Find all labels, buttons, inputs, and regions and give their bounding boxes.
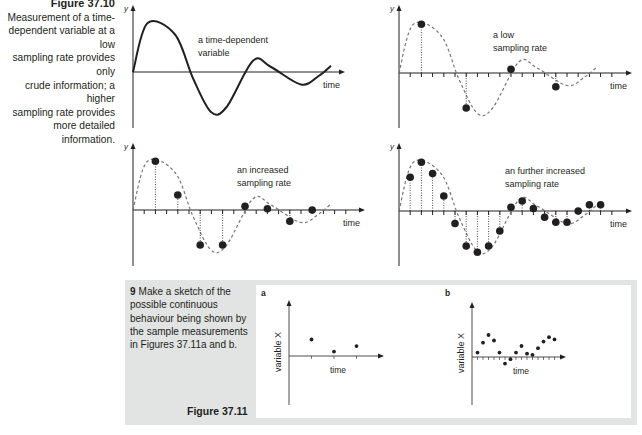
y-axis-label: y xyxy=(123,142,129,151)
sample-point xyxy=(474,248,482,256)
x-axis-label: time xyxy=(513,366,529,376)
sample-point xyxy=(286,217,294,225)
data-point xyxy=(481,341,485,345)
y-axis-label: y xyxy=(389,142,395,151)
data-point xyxy=(355,344,359,348)
panel-label: b xyxy=(445,288,450,298)
sample-point xyxy=(429,170,437,178)
sample-point xyxy=(451,220,459,228)
x-axis-label: time xyxy=(323,80,340,90)
data-point xyxy=(536,346,540,350)
sample-point xyxy=(586,201,594,209)
data-point xyxy=(542,340,546,344)
sample-point xyxy=(219,241,227,249)
y-axis-label: y xyxy=(389,4,395,13)
sample-point xyxy=(174,191,182,199)
sample-point xyxy=(530,205,538,213)
chart-top-right: ytimea lowsampling rate xyxy=(389,4,629,128)
arrow-right-icon xyxy=(626,71,632,76)
sample-point xyxy=(196,241,204,249)
sample-point xyxy=(574,207,582,215)
arrow-right-icon xyxy=(339,70,345,75)
sample-point xyxy=(264,205,272,213)
panel-label: a xyxy=(261,288,266,298)
sample-point xyxy=(308,206,316,214)
sample-point xyxy=(496,227,504,235)
sample-point xyxy=(518,197,526,205)
x-axis-label: time xyxy=(330,365,346,375)
annotation-text: sampling rate xyxy=(505,179,559,189)
annotation-text: sampling rate xyxy=(493,43,547,53)
arrow-right-icon xyxy=(560,355,566,360)
data-point xyxy=(310,338,314,342)
annotation-text: a time-dependent xyxy=(198,35,269,45)
annotation-text: an further increased xyxy=(505,166,585,176)
sample-point xyxy=(485,242,493,250)
arrow-up-icon xyxy=(131,143,136,149)
data-point xyxy=(476,351,480,355)
y-axis-label: y xyxy=(123,4,129,13)
data-point xyxy=(509,357,513,361)
annotation-text: a low xyxy=(493,30,515,40)
annotation-text: sampling rate xyxy=(237,178,291,188)
sample-point xyxy=(552,83,560,91)
sample-point xyxy=(552,218,560,226)
chart-bottom-left: ytimean increasedsampling rate xyxy=(123,142,362,266)
y-axis-label: variable X xyxy=(456,333,466,373)
arrow-up-icon xyxy=(287,300,292,306)
data-point xyxy=(520,344,524,348)
x-axis-label: time xyxy=(610,219,627,229)
sample-point xyxy=(597,201,605,209)
arrow-up-icon xyxy=(470,302,475,308)
arrow-up-icon xyxy=(131,5,136,11)
data-point xyxy=(514,351,518,355)
arrow-right-icon xyxy=(626,209,632,214)
arrow-right-icon xyxy=(378,354,384,359)
sample-point xyxy=(241,202,249,210)
sample-point xyxy=(418,20,426,28)
data-point xyxy=(525,352,529,356)
chart-fig-37-11b: btimevariable X xyxy=(445,288,566,405)
data-point xyxy=(498,351,502,355)
sample-point xyxy=(418,158,426,166)
arrow-up-icon xyxy=(397,5,402,11)
sample-point xyxy=(462,104,470,112)
x-axis-label: time xyxy=(610,81,627,91)
y-axis-label: variable X xyxy=(273,332,283,372)
sample-point xyxy=(406,173,414,181)
data-point xyxy=(487,333,491,337)
chart-bottom-right: ytimean further increasedsampling rate xyxy=(389,142,629,266)
data-point xyxy=(503,362,507,366)
sample-point xyxy=(152,157,160,165)
dashed-curve xyxy=(133,159,331,253)
arrow-right-icon xyxy=(359,208,365,213)
sample-point xyxy=(563,218,571,226)
arrow-up-icon xyxy=(397,143,402,149)
annotation-text: an increased xyxy=(237,165,289,175)
sample-point xyxy=(507,203,515,211)
data-point xyxy=(492,339,496,343)
data-point xyxy=(531,353,535,357)
chart-top-left: ytimea time-dependentvariable xyxy=(123,4,342,128)
figure-charts: ytimea time-dependentvariableytimea lows… xyxy=(0,0,642,435)
sample-point xyxy=(440,192,448,200)
annotation-text: variable xyxy=(198,48,230,58)
sample-point xyxy=(541,213,549,221)
data-point xyxy=(547,335,551,339)
chart-fig-37-11a: atimevariable X xyxy=(261,288,384,405)
data-point xyxy=(553,338,557,342)
sample-point xyxy=(507,65,515,73)
data-point xyxy=(332,350,336,354)
x-axis-label: time xyxy=(343,218,360,228)
sample-point xyxy=(462,242,470,250)
